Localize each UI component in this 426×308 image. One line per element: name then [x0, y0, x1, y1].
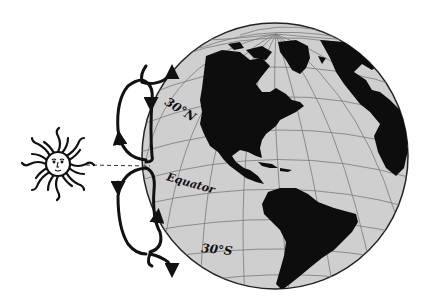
- globe-icon: [140, 23, 420, 300]
- sun-icon: [22, 128, 94, 200]
- sun-ray: [86, 165, 150, 166]
- circulation-diagram: 30°N Equator 30°S: [0, 0, 426, 308]
